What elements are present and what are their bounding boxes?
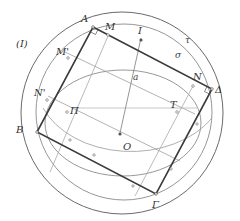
geometry-diagram: (I) A M M' N' Π B I τ σ N Δ a O T Γ — [0, 0, 240, 221]
point-lower-4 — [170, 168, 172, 170]
figure-label: (I) — [16, 38, 28, 49]
label-I: I — [137, 25, 143, 36]
label-Pi: Π — [69, 105, 79, 116]
point-I — [139, 38, 142, 41]
point-N — [192, 85, 195, 88]
axis-a — [120, 38, 141, 133]
point-Gamma — [155, 193, 158, 196]
point-T — [176, 111, 179, 114]
point-B — [36, 131, 39, 134]
point-Nprime — [46, 99, 49, 102]
label-tau: τ — [185, 35, 191, 45]
label-Gamma: Γ — [151, 199, 160, 210]
label-Nprime: N' — [33, 87, 46, 98]
point-Mprime — [67, 57, 70, 60]
point-M — [107, 34, 110, 37]
label-Delta: Δ — [214, 84, 222, 95]
label-N: N — [192, 71, 203, 82]
point-O — [118, 132, 121, 135]
point-right-1 — [196, 123, 198, 125]
label-a: a — [133, 72, 138, 82]
label-O: O — [123, 141, 131, 152]
point-Delta — [211, 88, 214, 91]
point-A — [92, 26, 95, 29]
label-M: M — [104, 21, 116, 32]
line-Nprime-T — [48, 96, 180, 161]
label-B: B — [15, 124, 23, 135]
point-Pi — [66, 111, 69, 114]
label-Mprime: M' — [55, 46, 69, 57]
label-sigma: σ — [175, 50, 182, 60]
point-lower-2 — [93, 154, 95, 156]
label-A: A — [80, 13, 88, 24]
point-lower-1 — [69, 139, 71, 141]
point-lower-3 — [132, 185, 134, 187]
